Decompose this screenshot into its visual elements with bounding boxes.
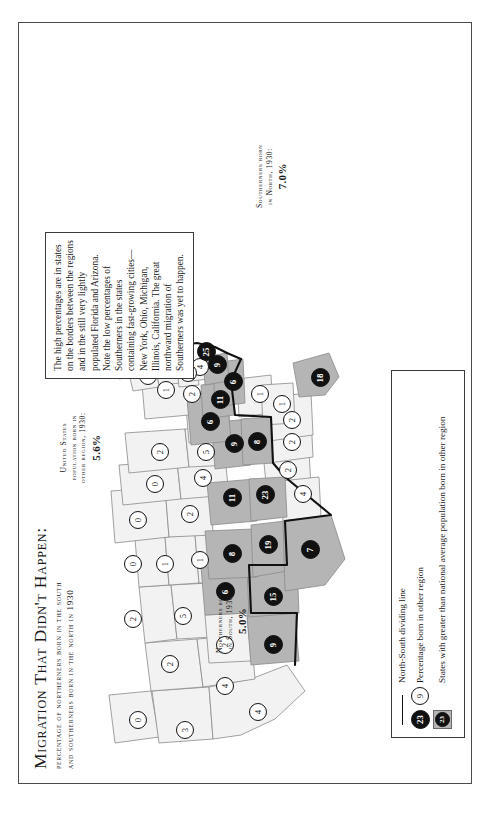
state-marker: 0: [129, 511, 147, 529]
state-marker: 1: [157, 381, 175, 399]
state-marker: 0: [124, 555, 142, 573]
stat-united-states: United States population born in other r…: [59, 412, 103, 483]
state-marker: 15: [264, 588, 283, 607]
legend-label-percentage: Percentage born in other region: [415, 567, 426, 683]
state-marker: 6: [224, 373, 243, 392]
poster-page: .st{stroke:#8a8a8a;stroke-width:.8;} .lo…: [0, 0, 487, 838]
state-marker: 1: [191, 551, 209, 569]
stat-us-label-1: United States: [59, 412, 69, 483]
state-marker: 18: [311, 369, 330, 388]
stat-south-label-2: in North, 1930:: [265, 145, 275, 208]
map-plate: .st{stroke:#8a8a8a;stroke-width:.8;} .lo…: [19, 23, 471, 783]
state-marker: 7: [301, 541, 320, 560]
state-marker: 9: [264, 636, 283, 655]
state-marker: 11: [223, 489, 242, 508]
state-marker: 4: [194, 469, 212, 487]
legend-low-circle-icon: 9: [411, 687, 429, 705]
legend-high-circle-icon: 23: [411, 710, 430, 729]
state-marker: 4: [216, 677, 234, 695]
map-legend: North-South dividing line 23 9 Percentag…: [391, 370, 465, 738]
stat-south-value: 7.0%: [275, 145, 289, 208]
legend-label-above-average: States with greater than national averag…: [437, 417, 448, 683]
rotated-plate-wrapper: .st{stroke:#8a8a8a;stroke-width:.8;} .lo…: [19, 23, 471, 783]
state-marker: 11: [211, 391, 230, 410]
stat-northerners-born-in-south: Northerners born in South, 1930: 5.0%: [215, 589, 250, 653]
state-marker: 0: [129, 711, 147, 729]
legend-swatch-circle-icon: 23: [435, 712, 450, 727]
state-marker: 2: [151, 443, 169, 461]
state-marker: 6: [201, 413, 220, 432]
state-marker: 1: [156, 555, 174, 573]
state-marker: 8: [223, 545, 242, 564]
legend-item-percentage: 23 9 Percentage born in other region: [411, 379, 430, 729]
state-marker: 5: [197, 443, 215, 461]
annotation-note-box: The high percentages are in states on th…: [45, 232, 194, 379]
state-marker: 19: [259, 536, 278, 555]
state-marker: 2: [279, 461, 297, 479]
legend-item-above-average: 23 States with greater than national ave…: [433, 379, 452, 729]
stat-north-value: 5.0%: [235, 589, 249, 653]
map-frame: .st{stroke:#8a8a8a;stroke-width:.8;} .lo…: [18, 22, 472, 784]
state-marker: 8: [248, 433, 267, 452]
state-marker: 5: [174, 607, 192, 625]
state-marker: 2: [283, 433, 301, 451]
state-marker: 23: [256, 486, 275, 505]
state-marker: 1: [251, 385, 269, 403]
state-marker: 1: [273, 395, 291, 413]
state-marker: 2: [181, 505, 199, 523]
legend-circle-symbols: 23 9: [411, 683, 430, 729]
stat-south-label-1: Southerners born: [255, 145, 265, 208]
legend-line-symbol: [402, 683, 403, 729]
state-marker: 4: [294, 485, 312, 503]
state-marker: 0: [146, 475, 164, 493]
shaded-state-swatch-icon: 23: [433, 710, 452, 729]
stat-us-label-2: population born in: [69, 412, 79, 483]
state-marker: 2: [283, 411, 301, 429]
stat-north-label-2: in South, 1930:: [225, 589, 235, 653]
stat-southerners-born-in-north: Southerners born in North, 1930: 7.0%: [255, 145, 290, 208]
state-marker: 4: [249, 703, 267, 721]
legend-label-dividing-line: North-South dividing line: [397, 588, 408, 683]
state-marker: 2: [161, 655, 179, 673]
dividing-line-icon: [402, 695, 403, 725]
stat-us-label-3: other region, 1930:: [78, 412, 88, 483]
state-marker: 25: [197, 343, 216, 362]
state-marker: 2: [183, 385, 201, 403]
state-marker: 3: [176, 721, 194, 739]
stat-us-value: 5.6%: [89, 412, 103, 483]
stat-north-label-1: Northerners born: [215, 589, 225, 653]
legend-item-dividing-line: North-South dividing line: [397, 379, 408, 729]
state-marker: 2: [124, 610, 142, 628]
legend-swatch-symbol: 23: [433, 683, 452, 729]
state-marker: 9: [225, 435, 244, 454]
